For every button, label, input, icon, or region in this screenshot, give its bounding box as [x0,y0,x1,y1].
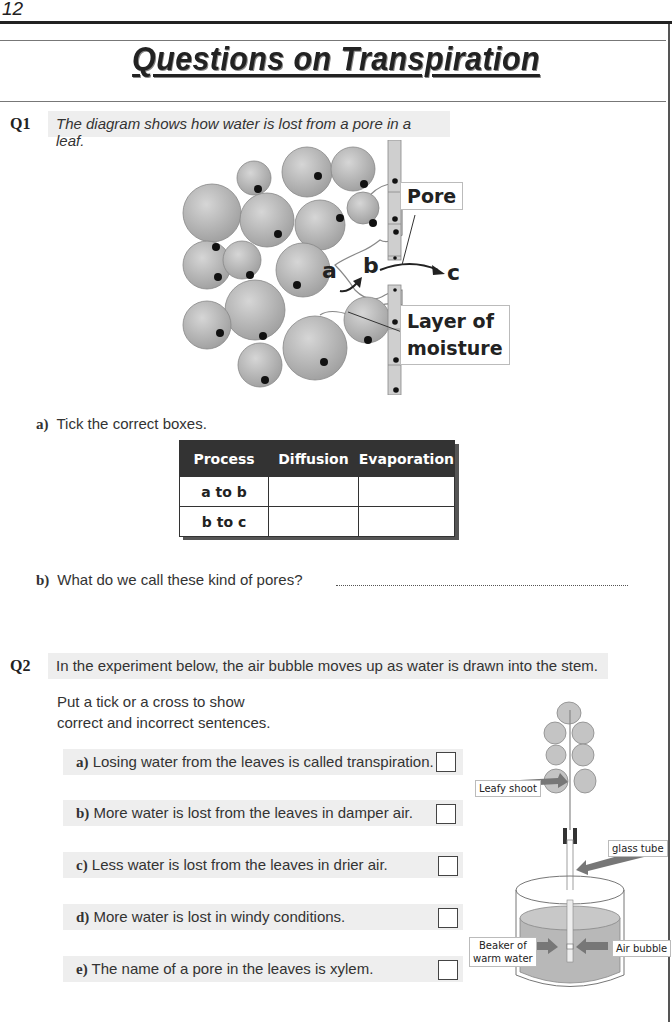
tick-box-b-c-diffusion[interactable] [269,507,359,537]
statement-d-checkbox[interactable] [438,908,458,928]
page-number: 12 [2,0,23,20]
leaf-pore-diagram: a b c Pore Layer of moisture [170,140,510,395]
statement-text: More water is lost from the leaves in da… [94,804,413,821]
statement-letter: a) [76,754,89,770]
process-table: Process Diffusion Evaporation a to b b t… [179,440,455,536]
beaker-label-line1: Beaker of [473,939,533,952]
statement-d: d) More water is lost in windy condition… [63,904,463,930]
table-row: a to b [180,477,455,507]
statement-letter: e) [76,961,88,977]
statement-letter: b) [76,805,89,821]
statement-text: Less water is lost from the leaves in dr… [92,856,388,873]
q1-part-b-text: What do we call these kind of pores? [57,571,302,588]
statement-e: e) The name of a pore in the leaves is x… [63,956,463,982]
q1-part-a-text: Tick the correct boxes. [57,415,207,432]
col-diffusion: Diffusion [269,441,359,477]
col-evaporation: Evaporation [358,441,454,477]
q2-prompt: In the experiment below, the air bubble … [48,653,608,679]
label-c: c [447,260,460,285]
statement-letter: d) [76,909,89,925]
title-rule-bottom [0,101,666,102]
air-bubble-label: Air bubble [612,940,671,957]
page-title: Questions on Transpiration [27,40,645,78]
tick-box-a-b-evaporation[interactable] [358,477,454,507]
tick-box-a-b-diffusion[interactable] [269,477,359,507]
statement-text: The name of a pore in the leaves is xyle… [92,960,374,977]
q1-part-b-letter: b) [36,572,49,588]
statement-a: a) Losing water from the leaves is calle… [63,749,463,775]
moisture-label-line2: moisture [407,335,503,362]
pore-label: Pore [400,182,463,210]
q2-instruction-line1: Put a tick or a cross to show [57,691,270,712]
q1-part-a-letter: a) [36,416,49,432]
header-rule [0,21,672,24]
statement-text: Losing water from the leaves is called t… [93,753,434,770]
q1-prompt: The diagram shows how water is lost from… [48,111,450,137]
statement-c: c) Less water is lost from the leaves in… [63,852,463,878]
row-process: a to b [180,477,269,507]
statement-b-checkbox[interactable] [436,804,456,824]
statement-c-checkbox[interactable] [438,856,458,876]
tick-box-b-c-evaporation[interactable] [358,507,454,537]
q2-instruction-line2: correct and incorrect sentences. [57,712,270,733]
q1-part-b-answer-line[interactable] [336,585,628,586]
transpiration-experiment-diagram: Leafy shoot glass tube Beaker of warm wa… [468,700,672,990]
moisture-label: Layer of moisture [400,305,510,365]
col-process: Process [180,441,269,477]
statement-a-checkbox[interactable] [436,752,456,772]
beaker-label: Beaker of warm water [469,937,537,967]
q2-instruction: Put a tick or a cross to show correct an… [57,691,270,733]
statement-e-checkbox[interactable] [438,960,458,980]
beaker-label-line2: warm water [473,952,533,965]
q1-number: Q1 [10,115,30,133]
glass-tube-label: glass tube [608,840,668,857]
table-row: b to c [180,507,455,537]
statement-b: b) More water is lost from the leaves in… [63,800,463,826]
q1-part-b: b)What do we call these kind of pores? [36,571,302,589]
label-b: b [363,253,379,278]
q2-number: Q2 [10,657,30,675]
statement-letter: c) [76,857,88,873]
leafy-shoot-label: Leafy shoot [475,780,541,797]
q1-part-a: a)Tick the correct boxes. [36,415,207,433]
label-a: a [322,258,337,283]
moisture-label-line1: Layer of [407,308,503,335]
row-process: b to c [180,507,269,537]
statement-text: More water is lost in windy conditions. [94,908,346,925]
